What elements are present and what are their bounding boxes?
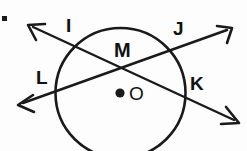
center-point-dot <box>115 88 124 97</box>
label-point-i: I <box>66 16 71 35</box>
scan-artifact-mark <box>2 16 7 21</box>
label-point-l: L <box>36 68 48 87</box>
label-point-j: J <box>173 19 184 38</box>
arrowhead-upper-right-icon <box>217 26 232 43</box>
label-point-k: K <box>190 74 204 93</box>
geometry-figure: I J M L K O <box>0 0 247 151</box>
arrowhead-lower-left-icon <box>18 95 34 112</box>
label-point-o: O <box>129 84 144 103</box>
label-point-m: M <box>114 40 131 60</box>
